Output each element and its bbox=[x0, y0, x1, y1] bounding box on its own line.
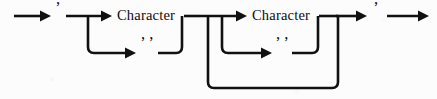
first-group-top-arrowhead bbox=[101, 11, 112, 22]
escaped-quote-pair-1: ’ ’ bbox=[140, 34, 153, 51]
second-group-top-arrowhead bbox=[236, 11, 247, 22]
entry-arrow bbox=[14, 11, 51, 22]
second-group-branch-arrowhead bbox=[261, 48, 272, 59]
character-terminal-2: Character bbox=[252, 7, 310, 23]
second-character-group: Character ’ ’ bbox=[200, 7, 338, 58]
railroad-diagram-canvas: ’ Character ’ ’ bbox=[0, 0, 437, 99]
exit-arrow bbox=[336, 11, 367, 22]
first-group-branch-arrowhead bbox=[125, 48, 136, 59]
final-arrowhead bbox=[418, 11, 429, 22]
character-terminal-1: Character bbox=[117, 7, 175, 23]
entry-arrowhead bbox=[40, 11, 51, 22]
first-character-group: Character ’ ’ bbox=[66, 7, 200, 58]
open-quote-label: ’ bbox=[55, 0, 60, 16]
exit-arrowhead bbox=[356, 11, 367, 22]
final-arrow bbox=[387, 11, 429, 22]
escaped-quote-pair-2: ’ ’ bbox=[275, 34, 288, 51]
railroad-diagram: ’ Character ’ ’ bbox=[0, 0, 437, 99]
close-quote-label: ’ bbox=[373, 0, 378, 16]
